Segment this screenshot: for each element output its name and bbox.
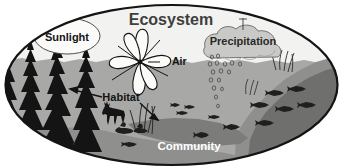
ecosystem-diagram: Ecosystem Sunlight Precipitation Air Hab… (0, 0, 343, 168)
figure-canvas: Ecosystem Sunlight Precipitation Air Hab… (0, 0, 343, 168)
precipitation-label: Precipitation (210, 35, 277, 47)
air-label: Air (172, 55, 187, 67)
community-label: Community (157, 140, 221, 152)
sunlight-label: Sunlight (45, 31, 89, 43)
habitat-label: Habitat (102, 91, 140, 103)
ecosystem-title: Ecosystem (129, 11, 214, 28)
